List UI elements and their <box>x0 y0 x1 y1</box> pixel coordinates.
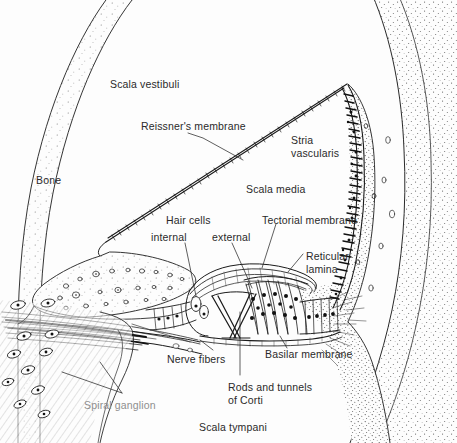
label-bone: Bone <box>36 174 61 187</box>
label-rods-and-tunnels-line2: of Corti <box>228 394 263 407</box>
label-spiral-ganglion: Spiral ganglion <box>84 399 156 412</box>
label-scala-tympani: Scala tympani <box>199 421 267 434</box>
label-reticular-lamina-line2: lamina <box>306 263 338 276</box>
basilar-membrane <box>200 332 342 346</box>
label-reissners-membrane: Reissner's membrane <box>141 120 246 133</box>
rods-and-tunnel-of-corti <box>212 292 256 338</box>
cochlea-cross-section-figure: Scala vestibuli Reissner's membrane Stri… <box>0 0 457 443</box>
label-stria-vascularis-line1: Stria <box>291 134 313 147</box>
label-nerve-fibers: Nerve fibers <box>167 353 225 366</box>
label-basilar-membrane: Basilar membrane <box>265 348 353 361</box>
label-reticular-lamina-line1: Reticular <box>306 250 349 263</box>
label-rods-and-tunnels-line1: Rods and tunnels <box>228 381 312 394</box>
spiral-ganglion <box>0 298 134 443</box>
label-hair-cells-external: external <box>212 231 251 244</box>
inner-hair-cells <box>191 297 208 319</box>
organ-of-corti <box>186 277 308 338</box>
label-hair-cells: Hair cells <box>166 214 211 227</box>
label-tectorial-membrane: Tectorial membrane <box>262 214 357 227</box>
label-scala-media: Scala media <box>246 183 305 196</box>
cochlea-diagram-artwork <box>0 0 457 443</box>
label-hair-cells-internal: internal <box>151 231 187 244</box>
label-scala-vestibuli: Scala vestibuli <box>110 78 179 91</box>
label-stria-vascularis-line2: vascularis <box>291 147 339 160</box>
